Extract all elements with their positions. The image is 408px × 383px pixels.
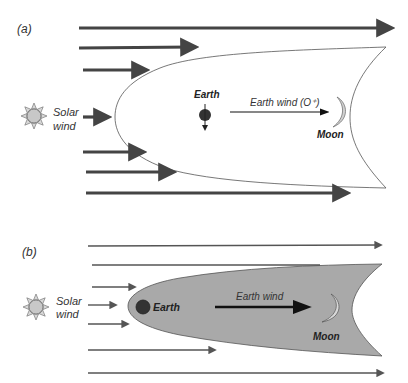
magnetosphere-outline-a <box>115 47 386 188</box>
moon-label: Moon <box>317 129 344 140</box>
solar-wind-arrow <box>79 47 193 48</box>
solar-wind-label-line1: Solar <box>53 106 80 118</box>
sun-icon <box>23 294 49 320</box>
magnetosphere-diagram: (a) Solar wind Earth Earth wind (O⁺) Moo… <box>0 0 408 383</box>
panel-b: (b) Solar wind Earth Earth wind Moon <box>22 245 382 373</box>
earth-label: Earth <box>194 89 220 100</box>
sun-icon <box>21 103 47 129</box>
earth-label: Earth <box>153 301 180 313</box>
earth-wind-label: Earth wind <box>236 291 284 302</box>
panel-a: (a) Solar wind Earth Earth wind (O⁺) Moo… <box>17 22 389 193</box>
solar-wind-label-line2: wind <box>56 308 80 320</box>
panel-label-a: (a) <box>17 22 32 36</box>
moon-label: Moon <box>313 331 340 342</box>
earth-wind-label: Earth wind (O⁺) <box>250 97 319 108</box>
solar-wind-arrow <box>88 245 380 246</box>
earth-icon <box>136 300 150 314</box>
solar-wind-label-line2: wind <box>53 120 77 132</box>
solar-wind-label-line1: Solar <box>56 295 83 307</box>
panel-label-b: (b) <box>22 245 37 259</box>
